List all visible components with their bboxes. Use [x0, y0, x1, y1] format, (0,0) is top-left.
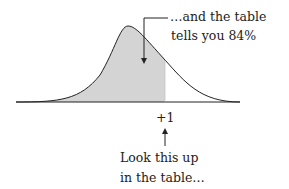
- shaded-area: [16, 26, 165, 102]
- arrowhead-up: [162, 128, 168, 134]
- callout-top-line1: …and the table: [170, 11, 266, 24]
- callout-bottom-line2: in the table…: [120, 172, 205, 185]
- callout-bottom-line1: Look this up: [120, 152, 198, 165]
- tick-label: +1: [156, 112, 174, 125]
- callout-top-line2: tells you 84%: [171, 30, 256, 43]
